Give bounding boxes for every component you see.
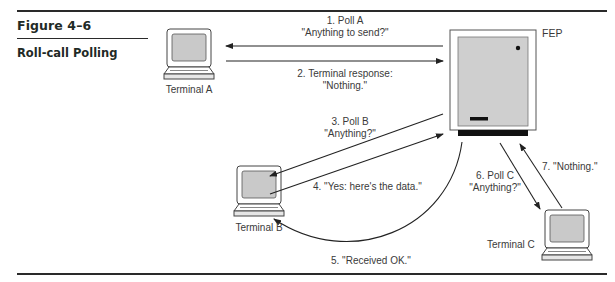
- terminal-b-label: Terminal B: [229, 222, 289, 234]
- message-3-label: 3. Poll B "Anything?": [310, 116, 390, 140]
- message-3-line2: "Anything?": [310, 128, 390, 140]
- terminal-c-icon: [542, 210, 592, 260]
- terminal-a-label: Terminal A: [159, 84, 219, 96]
- message-6-line2: "Anything?": [460, 182, 530, 194]
- terminal-c-label: Terminal C: [487, 239, 535, 251]
- fep-label: FEP: [542, 27, 562, 39]
- message-7-label: 7. "Nothing.": [542, 161, 597, 173]
- message-1-line1: 1. Poll A: [270, 15, 420, 27]
- message-2-line1: 2. Terminal response:: [270, 68, 420, 80]
- message-4-label: 4. "Yes: here's the data.": [313, 181, 422, 193]
- message-5-label: 5. "Received OK.": [331, 255, 411, 267]
- message-6-line1: 6. Poll C: [460, 170, 530, 182]
- message-1-line2: "Anything to send?": [270, 27, 420, 39]
- message-2-label: 2. Terminal response: "Nothing.": [270, 68, 420, 92]
- terminal-a-icon: [164, 29, 214, 79]
- message-3-line1: 3. Poll B: [310, 116, 390, 128]
- message-2-line2: "Nothing.": [270, 80, 420, 92]
- fep-icon: [450, 30, 536, 136]
- message-1-label: 1. Poll A "Anything to send?": [270, 15, 420, 39]
- message-6-label: 6. Poll C "Anything?": [460, 170, 530, 194]
